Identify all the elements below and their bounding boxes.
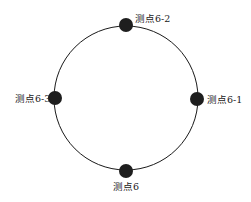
point-marker-6-1: [190, 92, 204, 106]
pipe-circle: [54, 26, 198, 170]
point-marker-6-2: [119, 18, 133, 32]
point-label-6-3: 测点6-3: [15, 93, 50, 104]
point-label-6-2: 测点6-2: [135, 13, 170, 24]
measurement-diagram: 测点6-2 测点6-3 测点6-1 测点6: [0, 0, 251, 202]
point-label-6-1: 测点6-1: [207, 94, 242, 105]
point-label-6: 测点6: [113, 181, 139, 192]
point-marker-6: [119, 164, 133, 178]
